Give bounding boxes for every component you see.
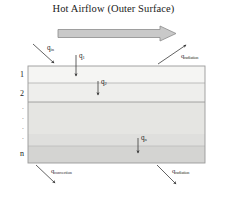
q-radiation-bottom-label: qradiation (172, 168, 189, 175)
slab-layers (28, 66, 205, 163)
q-n-subscript: n (145, 137, 147, 142)
q-convection-bottom-label: qconvection (51, 168, 72, 175)
layer-index-n: n (12, 150, 24, 158)
layer-index-ellipsis-4: · (12, 137, 24, 143)
layer-index-2: 2 (12, 90, 24, 98)
diagram-graphics (0, 0, 227, 197)
layer-index-1: 1 (12, 71, 24, 79)
q-in-subscript: in (51, 47, 54, 52)
thermal-layers-diagram: Hot Airflow (Outer Surface) (0, 0, 227, 197)
q-in-label: qin (47, 45, 54, 52)
layer-index-ellipsis-3: · (12, 127, 24, 133)
q-radiation-top-subscript: radiation (184, 55, 198, 60)
q-1-subscript: 1 (83, 55, 85, 60)
q-2-subscript: 2 (105, 81, 107, 86)
q-radiation-top-label: qradiation (181, 53, 198, 60)
layer-index-ellipsis-1: · (12, 107, 24, 113)
airflow-block-arrow (58, 26, 176, 41)
q-2-label: q2 (101, 79, 107, 86)
q-n-label: qn (141, 135, 147, 142)
q-convection-subscript: convection (54, 170, 71, 175)
q-radiation-bottom-subscript: radiation (175, 170, 189, 175)
layer-index-ellipsis-2: · (12, 117, 24, 123)
q-1-label: q1 (79, 53, 85, 60)
